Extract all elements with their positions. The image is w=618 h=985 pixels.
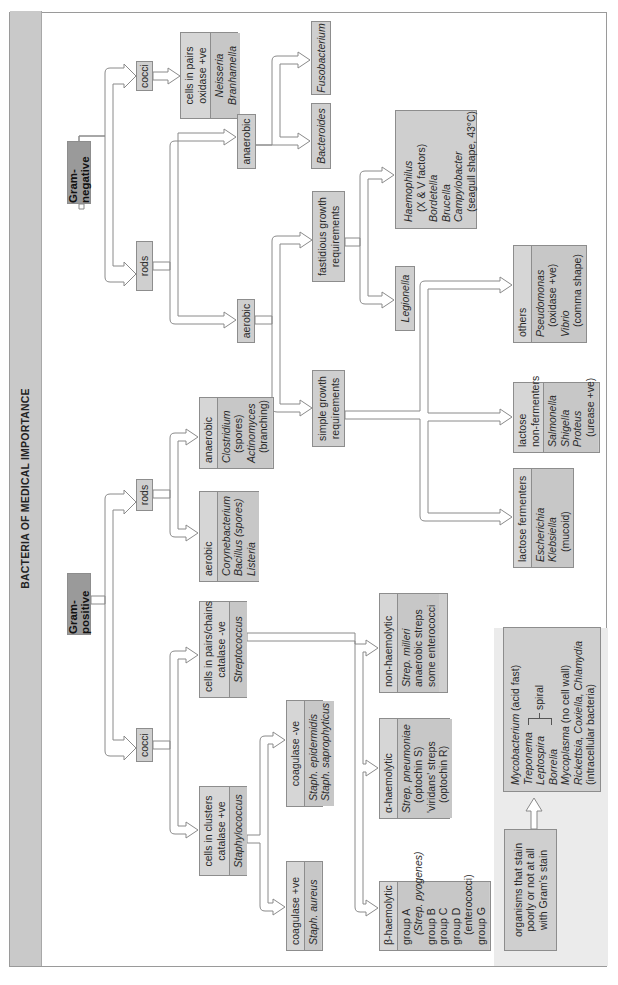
spiral-bracket-tick [539, 713, 540, 719]
poor-stain-organisms-box: Mycobacterium (acid fast) Treponema Lept… [503, 627, 601, 792]
streptococcus-box: cells in pairs/chains catalase -ve Strep… [199, 601, 247, 698]
lactose-fermenters-box: lactose fermenters Escherichia Klebsiell… [513, 468, 574, 568]
spiral-bracket [528, 718, 552, 725]
fastidious-growth-box: fastidious growth requirements [312, 191, 345, 282]
beta-haemolytic-box: β-haemolytic group A (Strep. pyogenes) g… [379, 881, 491, 951]
diagram-canvas: BACTERIA OF MEDICAL IMPORTANCE Gram- [9, 12, 607, 967]
haemophilus-box: Haemophilus (X & V factors) Bordetella B… [395, 110, 477, 229]
others-box: others Pseudomonas (oxidase +ve) Vibrio … [513, 245, 587, 343]
gram-negative-label: Gram-negative [67, 141, 91, 204]
diagram-title: BACTERIA OF MEDICAL IMPORTANCE [10, 11, 41, 966]
simple-growth-box: simple growth requirements [312, 370, 345, 447]
alpha-haemolytic-box: α-haemolytic Strep. pneumoniae (optochin… [379, 718, 450, 819]
gram-positive-label: Gram-positive [67, 573, 91, 635]
non-haemolytic-box: non-haemolytic Strep. milleri anaerobic … [379, 593, 448, 693]
neisseria-box: cells in pairs oxidase +ve Neisseria Bra… [180, 32, 238, 119]
spiral-group: Treponema Leptospira Borrelia spiral [522, 634, 560, 785]
poor-stain-box: organisms that stain poorly or not at al… [504, 829, 557, 951]
coagulase-negative-box: coagulase -ve Staph. epidermidis Staph. … [286, 700, 323, 807]
coagulase-positive-box: coagulase +ve Staph. aureus [286, 861, 323, 951]
gram-negative-aerobic-box: aerobic [237, 299, 255, 343]
gram-negative-anaerobic-box: anaerobic [237, 114, 256, 169]
gram-positive-cocci-box: cocci [136, 728, 153, 762]
staphylococcus-box: cells in clusters catalase +ve Staphyloc… [199, 786, 247, 876]
gram-positive-rods-box: rods [136, 479, 153, 511]
gram-positive-aerobic-box: aerobic Corynebacterium Bacillus (spores… [199, 491, 259, 582]
legionella-box: Legionella [395, 266, 415, 331]
lactose-non-fermenters-box: lactose non-fermenters Salmonella Shigel… [513, 382, 600, 453]
gram-negative-rods-box: rods [136, 241, 153, 291]
title-band: BACTERIA OF MEDICAL IMPORTANCE [10, 11, 42, 966]
gram-positive-anaerobic-box: anaerobic Clostridium (spores) Actinomyc… [199, 397, 274, 469]
bacteroides-box: Bacteroides [311, 103, 331, 169]
gram-negative-cocci-box: cocci [136, 61, 153, 91]
fusobacterium-box: Fusobacterium [311, 21, 331, 95]
